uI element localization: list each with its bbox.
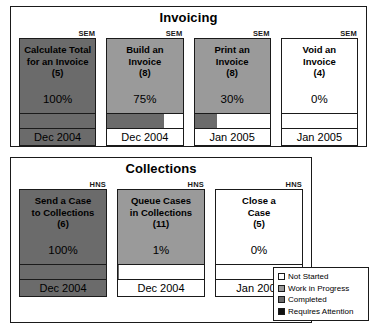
process-card[interactable]: Calculate Total for an Invoice(5)100%Dec… [19,38,96,146]
card-count: (5) [20,67,95,79]
card-count: (5) [216,218,302,230]
card-date: Jan 2005 [282,128,357,145]
card-owner-tag: SEM [281,29,358,38]
legend-item: Requires Attention [278,306,368,318]
process-card[interactable]: Build an Invoice(8)75%Dec 2004 [106,38,183,146]
card-body: Build an Invoice(8)75% [107,39,182,113]
card-count: (4) [282,67,357,79]
card-body: Calculate Total for an Invoice(5)100% [20,39,95,113]
card-body: Print an Invoice(8)30% [195,39,270,113]
panel-title-invoicing: Invoicing [11,7,366,25]
process-card[interactable]: Send a Case to Collections(6)100%Dec 200… [19,189,107,297]
legend-label: Not Started [288,271,328,283]
legend-item: Completed [278,294,368,306]
card-owner-tag: SEM [194,29,271,38]
process-card-wrapper: HNSQueue Cases in Collections(11)1%Dec 2… [117,180,205,297]
card-progress-bar [107,113,182,128]
legend-item: Not Started [278,271,368,283]
card-percent-label: 100% [20,244,106,257]
card-body: Close a Case(5)0% [216,190,302,264]
card-progress-fill [20,114,95,128]
card-percent-label: 75% [107,93,182,106]
card-percent-label: 30% [195,93,270,106]
card-percent-label: 100% [20,93,95,106]
panel-collections: Collections HNSSend a Case to Collection… [10,157,312,323]
process-card-wrapper: SEMPrint an Invoice(8)30%Jan 2005 [194,29,271,146]
card-progress-bar [20,113,95,128]
card-date: Dec 2004 [107,128,182,145]
card-date: Jan 2005 [195,128,270,145]
card-process-name: Send a Case to Collections [20,190,106,218]
card-process-name: Build an Invoice [107,39,182,67]
card-percent-label: 0% [216,244,302,257]
legend-swatch-icon [278,285,285,292]
card-count: (8) [195,67,270,79]
card-body: Void an Invoice(4)0% [282,39,357,113]
card-progress-fill [195,114,218,128]
card-progress-fill [20,265,106,279]
legend-label: Work in Progress [288,283,349,295]
card-progress-bar [195,113,270,128]
card-percent-label: 0% [282,93,357,106]
legend-item: Work in Progress [278,283,368,295]
panel-title-collections: Collections [11,158,311,176]
card-process-name: Queue Cases in Collections [118,190,204,218]
card-progress-fill [118,265,119,279]
process-card-wrapper: SEMCalculate Total for an Invoice(5)100%… [19,29,96,146]
card-count: (11) [118,218,204,230]
card-progress-fill [107,114,163,128]
process-card-wrapper: SEMBuild an Invoice(8)75%Dec 2004 [106,29,183,146]
panel-invoicing: Invoicing SEMCalculate Total for an Invo… [10,6,367,147]
legend-label: Requires Attention [288,306,353,318]
card-date: Dec 2004 [118,279,204,296]
card-owner-tag: HNS [19,180,107,189]
legend-swatch-icon [278,308,285,315]
card-process-name: Close a Case [216,190,302,218]
card-row-collections: HNSSend a Case to Collections(6)100%Dec … [11,180,311,297]
card-owner-tag: HNS [215,180,303,189]
card-process-name: Void an Invoice [282,39,357,67]
card-count: (6) [20,218,106,230]
process-card[interactable]: Queue Cases in Collections(11)1%Dec 2004 [117,189,205,297]
legend: Not StartedWork in ProgressCompletedRequ… [273,267,369,321]
legend-label: Completed [288,294,327,306]
card-body: Queue Cases in Collections(11)1% [118,190,204,264]
process-card[interactable]: Print an Invoice(8)30%Jan 2005 [194,38,271,146]
card-progress-bar [282,113,357,128]
card-process-name: Print an Invoice [195,39,270,67]
card-percent-label: 1% [118,244,204,257]
card-owner-tag: SEM [106,29,183,38]
legend-swatch-icon [278,296,285,303]
process-card[interactable]: Void an Invoice(4)0%Jan 2005 [281,38,358,146]
card-date: Dec 2004 [20,128,95,145]
card-owner-tag: HNS [117,180,205,189]
legend-swatch-icon [278,273,285,280]
card-date: Dec 2004 [20,279,106,296]
card-progress-bar [20,264,106,279]
card-progress-bar [118,264,204,279]
process-card-wrapper: HNSSend a Case to Collections(6)100%Dec … [19,180,107,297]
card-owner-tag: SEM [19,29,96,38]
card-process-name: Calculate Total for an Invoice [20,39,95,67]
card-row-invoicing: SEMCalculate Total for an Invoice(5)100%… [11,29,366,146]
card-body: Send a Case to Collections(6)100% [20,190,106,264]
card-count: (8) [107,67,182,79]
process-card-wrapper: SEMVoid an Invoice(4)0%Jan 2005 [281,29,358,146]
